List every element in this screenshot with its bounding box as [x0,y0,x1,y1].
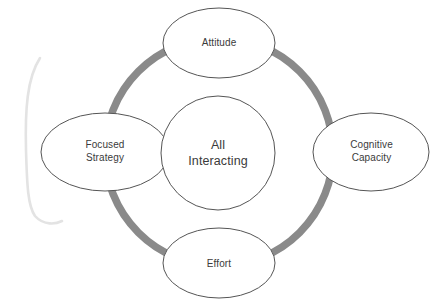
node-shape-cognitive-capacity[interactable] [313,113,429,191]
node-shape-attitude[interactable] [163,8,275,78]
cycle-diagram: Attitude Cognitive Capacity Effort Focus… [0,0,439,308]
node-shape-focused-strategy[interactable] [41,113,169,191]
node-shape-all-interacting[interactable] [161,96,275,210]
diagram-canvas [0,0,439,308]
node-shape-effort[interactable] [163,228,275,298]
